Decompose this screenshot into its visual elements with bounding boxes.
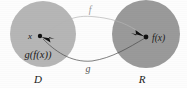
diagram-canvas: x f(x) g(f(x)) f g D R xyxy=(0,0,187,88)
range-set-circle xyxy=(112,0,180,68)
domain-set-label: D xyxy=(33,73,42,85)
composition-label: g(f(x)) xyxy=(25,49,52,61)
range-set-label: R xyxy=(138,73,146,85)
function-composition-diagram: x f(x) g(f(x)) f g D R xyxy=(0,0,187,88)
x-point-dot xyxy=(38,34,42,38)
inverse-map-label: g xyxy=(86,63,91,74)
fx-point-label: f(x) xyxy=(152,33,165,44)
forward-map-label: f xyxy=(89,5,93,15)
fx-point-dot xyxy=(144,35,149,40)
x-point-label: x xyxy=(27,31,32,41)
